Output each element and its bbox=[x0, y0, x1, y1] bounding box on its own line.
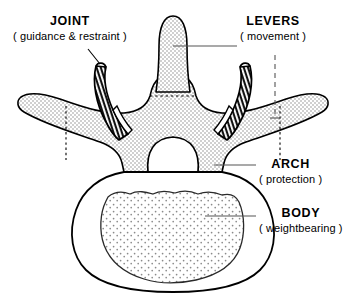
label-joint: JOINT ( guidance & restraint ) bbox=[13, 14, 127, 43]
label-body-title: BODY bbox=[259, 206, 343, 220]
label-joint-title: JOINT bbox=[13, 14, 127, 28]
label-arch-title: ARCH bbox=[259, 157, 322, 171]
vertebra-illustration bbox=[0, 0, 346, 297]
label-levers-title: LEVERS bbox=[240, 14, 306, 28]
label-levers-subtitle: ( movement ) bbox=[240, 30, 306, 43]
spinous-process bbox=[156, 16, 190, 92]
label-joint-subtitle: ( guidance & restraint ) bbox=[13, 30, 127, 43]
label-arch: ARCH ( protection ) bbox=[259, 157, 322, 186]
label-body-subtitle: ( weightbearing ) bbox=[259, 222, 343, 235]
body-cancellous-interior bbox=[101, 191, 244, 283]
label-levers: LEVERS ( movement ) bbox=[240, 14, 306, 43]
label-arch-subtitle: ( protection ) bbox=[259, 173, 322, 186]
vertebra-figure: JOINT ( guidance & restraint ) LEVERS ( … bbox=[0, 0, 346, 297]
leader-line-joint bbox=[88, 49, 100, 64]
label-body: BODY ( weightbearing ) bbox=[259, 206, 343, 235]
